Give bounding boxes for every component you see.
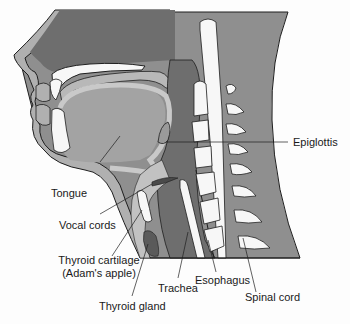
anatomy-diagram: Epiglottis Tongue Vocal cords Thyroid ca…	[0, 0, 350, 324]
label-esophagus: Esophagus	[195, 274, 250, 286]
tongue-shape	[60, 87, 166, 163]
lower-lip	[36, 104, 50, 125]
label-trachea: Trachea	[158, 282, 198, 294]
label-spinal-cord: Spinal cord	[245, 291, 300, 303]
label-tongue: Tongue	[51, 187, 87, 199]
label-thyroid-gland: Thyroid gland	[99, 300, 166, 312]
label-thyroid-cartilage: Thyroid cartilage	[49, 254, 149, 266]
label-vocal-cords: Vocal cords	[59, 219, 116, 231]
upper-lip	[36, 83, 50, 102]
label-epiglottis: Epiglottis	[293, 136, 338, 148]
label-adams-apple: (Adam's apple)	[49, 267, 149, 279]
